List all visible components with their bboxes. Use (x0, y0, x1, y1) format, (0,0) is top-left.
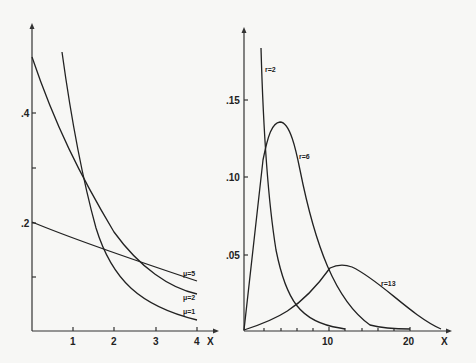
curve-r-13 (244, 265, 441, 330)
right-chart: 10 20 X .15 .10 .05 r=2 r=6 r=13 (226, 27, 452, 347)
curve-mu-5 (32, 222, 197, 281)
left-x-label: X (207, 336, 214, 347)
curve-r-2 (261, 48, 345, 329)
label-r-6: r=6 (299, 153, 310, 160)
left-y-tick-04: .4 (21, 108, 30, 119)
right-y-tick-15: .15 (226, 95, 240, 106)
label-mu-2: μ=2 (183, 294, 195, 302)
right-x-tick-10: 10 (322, 336, 334, 347)
curve-mu-1 (62, 52, 197, 320)
curve-mu-2 (32, 57, 197, 294)
right-y-arrow-icon (242, 27, 247, 33)
left-x-arrow-icon (213, 329, 219, 334)
left-x-tick-4: 4 (194, 336, 200, 347)
left-chart: 1 2 3 4 X .4 .2 μ=5 μ=2 μ=1 (21, 23, 219, 347)
left-x-tick-1: 1 (70, 336, 76, 347)
label-r-13: r=13 (381, 280, 396, 287)
curve-r-6 (244, 122, 410, 330)
label-mu-1: μ=1 (183, 308, 195, 316)
right-x-label: X (441, 336, 448, 347)
label-r-2: r=2 (265, 66, 276, 73)
right-y-tick-10: .10 (226, 172, 240, 183)
right-y-tick-05: .05 (226, 250, 240, 261)
left-x-tick-2: 2 (111, 336, 117, 347)
right-x-arrow-icon (446, 329, 452, 334)
left-y-arrow-icon (30, 23, 35, 29)
figure: 1 2 3 4 X .4 .2 μ=5 μ=2 μ=1 10 20 (0, 0, 476, 363)
label-mu-5: μ=5 (183, 270, 195, 278)
left-x-tick-3: 3 (153, 336, 159, 347)
left-y-tick-02: .2 (21, 218, 30, 229)
right-x-tick-20: 20 (403, 336, 415, 347)
